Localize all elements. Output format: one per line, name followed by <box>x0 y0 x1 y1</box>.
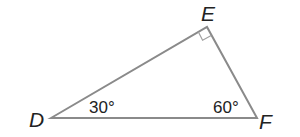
angle-label-f: 60° <box>213 98 239 117</box>
vertex-label-d: D <box>29 108 44 131</box>
vertex-label-f: F <box>259 110 273 133</box>
right-angle-marker <box>198 32 211 40</box>
vertex-label-e: E <box>201 2 216 25</box>
angle-label-d: 30° <box>89 98 115 117</box>
triangle-diagram: D E F 30° 60° <box>0 0 300 137</box>
